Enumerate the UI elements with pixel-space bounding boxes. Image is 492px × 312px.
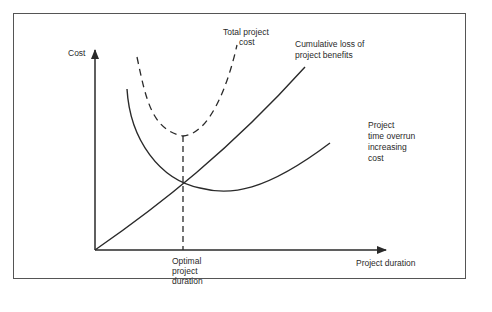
time-overrun-label-line-2: time overrun (368, 131, 416, 141)
diagram-canvas: Cost Project duration Total project cost… (0, 0, 492, 312)
cumulative-loss-label-line-2: project benefits (295, 50, 353, 60)
total-cost-label-line-1: Total project (223, 27, 269, 37)
x-axis-label: Project duration (356, 258, 416, 268)
time-overrun-label-line-3: increasing (368, 142, 407, 152)
time-overrun-label-line-1: Project (368, 120, 395, 130)
optimal-duration-label-line-3: duration (172, 276, 203, 286)
cumulative-loss-curve (95, 67, 305, 250)
time-overrun-label-line-4: cost (368, 153, 384, 163)
cumulative-loss-label-line-1: Cumulative loss of (295, 39, 365, 49)
total-cost-label-line-2: cost (239, 37, 255, 47)
y-axis-label: Cost (68, 48, 86, 58)
total-cost-curve (137, 45, 237, 136)
optimal-duration-label-line-1: Optimal (172, 256, 201, 266)
time-overrun-curve (127, 89, 330, 191)
optimal-duration-label-line-2: project (172, 266, 198, 276)
